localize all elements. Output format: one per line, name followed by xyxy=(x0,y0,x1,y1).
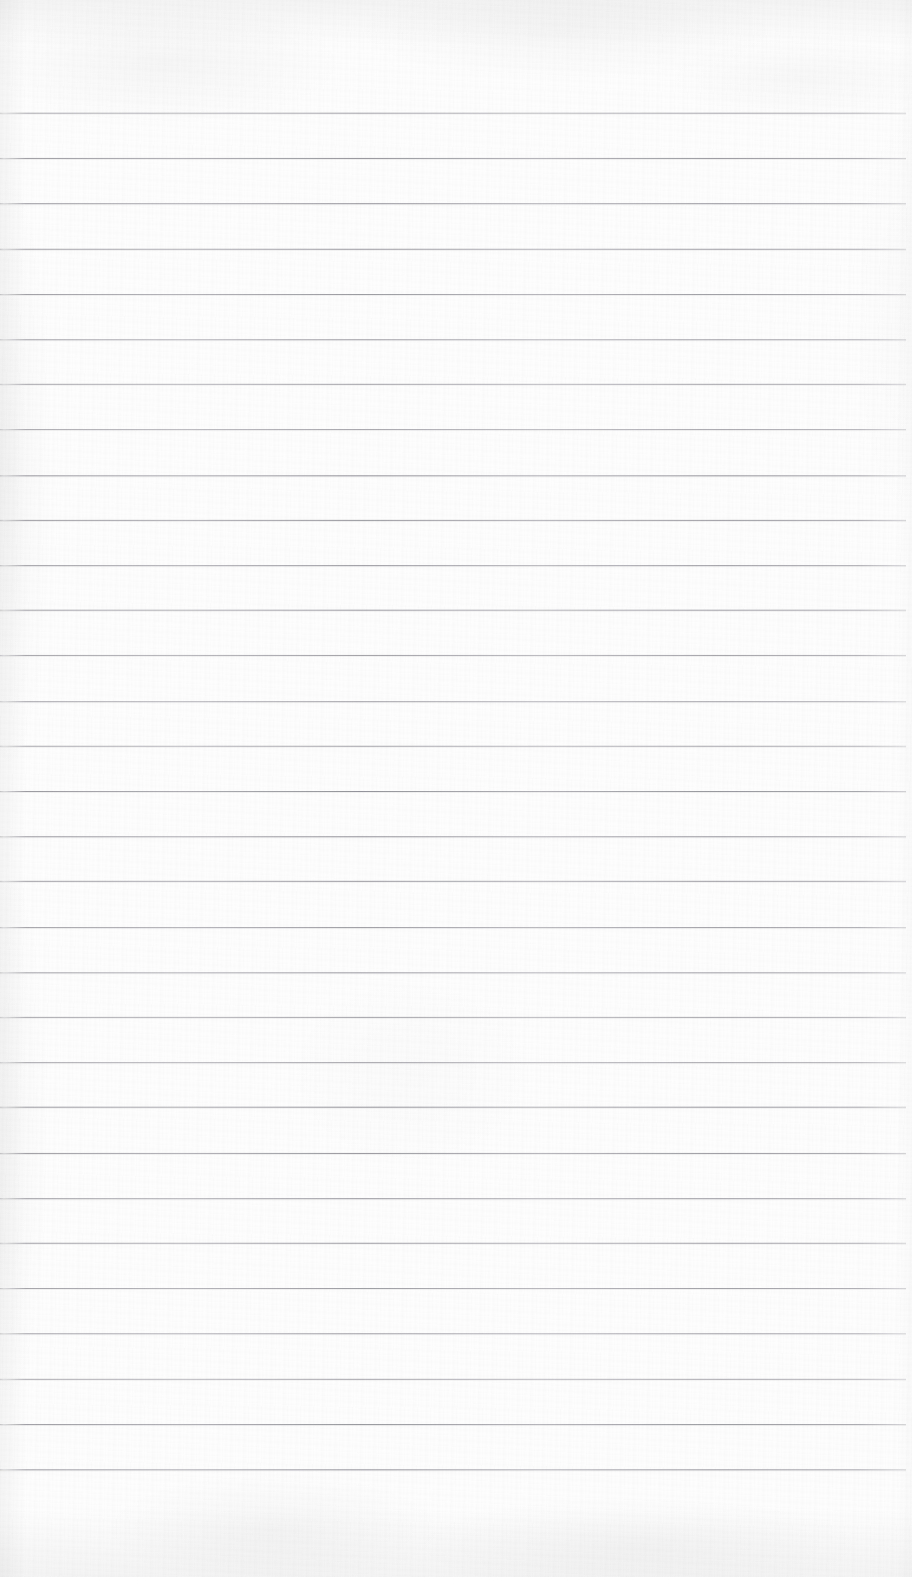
ruled-paper-page xyxy=(0,0,912,1577)
paper-background xyxy=(0,0,912,1577)
